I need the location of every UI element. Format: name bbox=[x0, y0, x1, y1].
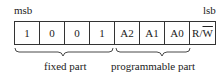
programmable-part-caption: programmable part bbox=[111, 60, 195, 72]
fixed-brace bbox=[15, 48, 113, 56]
fixed-part-caption: fixed part bbox=[44, 60, 86, 72]
programmable-brace bbox=[116, 48, 190, 56]
